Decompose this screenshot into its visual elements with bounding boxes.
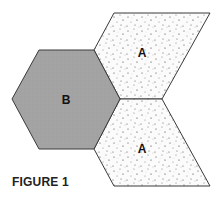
- figure-caption: FIGURE 1: [12, 175, 69, 189]
- rhombus-a-top-label: A: [138, 46, 147, 60]
- rhombus-a-bottom-label: A: [138, 142, 147, 156]
- hexagon-b-label: B: [62, 93, 71, 107]
- figure-diagram: B A A: [0, 0, 220, 199]
